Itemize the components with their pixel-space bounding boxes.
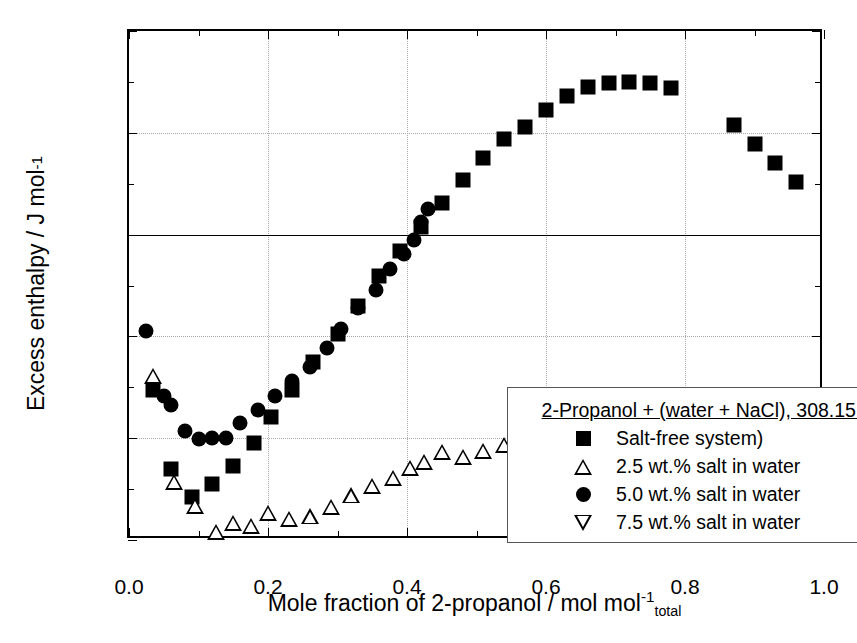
legend-title: 2-Propanol + (water + NaCl), 308.15 K	[508, 399, 857, 422]
chart-figure: Excess enthalpy / J mol-1 Mole fraction …	[0, 0, 857, 643]
data-point-filled-circle	[382, 262, 397, 277]
legend-label: 5.0 wt.% salt in water	[616, 483, 800, 506]
x-axis-minor-tick-top	[755, 30, 756, 36]
y-axis-minor-tick	[128, 82, 134, 83]
data-point-filled-square	[747, 136, 762, 151]
data-point-filled-square	[789, 175, 804, 190]
x-axis-tick	[268, 528, 269, 537]
data-point-open-triangle-up	[165, 474, 183, 490]
data-point-open-triangle-up	[224, 515, 242, 531]
y-axis-tick	[128, 438, 137, 439]
legend-entries: Salt-free system)2.5 wt.% salt in water5…	[508, 427, 857, 534]
data-point-filled-square	[601, 75, 616, 90]
x-axis-minor-tick	[477, 531, 478, 537]
legend-entry: 7.5 wt.% salt in water	[508, 511, 857, 534]
legend-marker-filled-circle	[566, 487, 600, 502]
gridline-horizontal	[129, 133, 820, 134]
data-point-filled-square	[664, 81, 679, 96]
data-point-open-triangle-up	[342, 487, 360, 503]
data-point-filled-circle	[205, 431, 220, 446]
gridline-horizontal	[129, 336, 820, 337]
legend-marker-filled-square	[566, 431, 600, 446]
data-point-filled-circle	[333, 321, 348, 336]
data-point-filled-square	[205, 477, 220, 492]
data-point-open-triangle-up	[415, 454, 433, 470]
x-axis-tick-top	[407, 30, 408, 39]
legend-label: Salt-free system)	[616, 427, 763, 450]
x-axis-tick	[129, 528, 130, 537]
y-axis-minor-tick	[128, 387, 134, 388]
gridline-vertical	[268, 31, 269, 536]
data-point-filled-square	[622, 75, 637, 90]
data-point-filled-circle	[267, 389, 282, 404]
data-point-open-triangle-up	[144, 368, 162, 384]
data-point-filled-square	[476, 151, 491, 166]
y-axis-tick-right	[812, 31, 821, 32]
y-axis-title-text: Excess enthalpy / J mol	[23, 169, 50, 411]
legend-entry: 2.5 wt.% salt in water	[508, 455, 857, 478]
legend-label: 2.5 wt.% salt in water	[616, 455, 800, 478]
data-point-filled-square	[264, 409, 279, 424]
x-axis-tick-label: 0.4	[392, 576, 421, 597]
data-point-open-triangle-up	[322, 499, 340, 515]
data-point-filled-circle	[285, 374, 300, 389]
y-axis-tick	[128, 336, 137, 337]
y-axis-tick-right	[812, 235, 821, 236]
data-point-open-triangle-up	[384, 470, 402, 486]
data-point-filled-square	[539, 102, 554, 117]
y-axis-minor-tick-right	[815, 286, 821, 287]
data-point-filled-square	[455, 173, 470, 188]
data-point-filled-square	[434, 196, 449, 211]
x-axis-tick-top	[268, 30, 269, 39]
data-point-filled-circle	[320, 340, 335, 355]
x-axis-minor-tick-top	[616, 30, 617, 36]
data-point-filled-circle	[233, 415, 248, 430]
data-point-open-triangle-up	[280, 511, 298, 527]
y-axis-tick	[128, 133, 137, 134]
x-axis-minor-tick-top	[199, 30, 200, 36]
x-axis-tick-top	[824, 30, 825, 39]
data-point-filled-square	[518, 119, 533, 134]
data-point-filled-square	[768, 156, 783, 171]
data-point-filled-circle	[139, 324, 154, 339]
data-point-open-triangle-up	[474, 443, 492, 459]
x-axis-minor-tick	[338, 531, 339, 537]
x-axis-tick-top	[129, 30, 130, 39]
data-point-filled-circle	[420, 202, 435, 217]
data-point-filled-circle	[351, 301, 366, 316]
y-axis-tick	[128, 235, 137, 236]
y-axis-tick	[128, 540, 137, 541]
data-point-filled-circle	[368, 282, 383, 297]
zero-reference-line	[129, 235, 820, 236]
legend-label: 7.5 wt.% salt in water	[616, 511, 800, 534]
data-point-filled-square	[247, 436, 262, 451]
data-point-filled-square	[643, 76, 658, 91]
data-point-open-triangle-up	[363, 478, 381, 494]
y-axis-minor-tick	[128, 184, 134, 185]
y-axis-tick-right	[812, 133, 821, 134]
data-point-open-triangle-up	[207, 524, 225, 540]
data-point-filled-circle	[406, 232, 421, 247]
data-point-filled-circle	[163, 398, 178, 413]
y-axis-minor-tick-right	[815, 184, 821, 185]
y-axis-minor-tick	[128, 489, 134, 490]
legend-entry: Salt-free system)	[508, 427, 857, 450]
x-axis-tick-label: 0.6	[531, 576, 560, 597]
y-axis-title-superscript: -1	[28, 156, 45, 170]
legend-box: 2-Propanol + (water + NaCl), 308.15 K Sa…	[507, 387, 857, 543]
x-axis-tick-top	[546, 30, 547, 39]
data-point-open-triangle-up	[433, 444, 451, 460]
x-axis-tick-label: 0.2	[253, 576, 282, 597]
data-point-filled-circle	[191, 432, 206, 447]
data-point-filled-circle	[250, 403, 265, 418]
data-point-filled-square	[580, 79, 595, 94]
plot-area: 4002000-200-400-6000.00.20.40.60.81.0 2-…	[127, 29, 822, 538]
data-point-open-triangle-up	[242, 518, 260, 534]
data-point-filled-circle	[396, 246, 411, 261]
data-point-open-triangle-up	[259, 505, 277, 521]
x-axis-minor-tick-top	[477, 30, 478, 36]
legend-marker-open-triangle-up	[566, 459, 600, 475]
x-axis-tick-label: 0.0	[114, 576, 143, 597]
data-point-filled-square	[726, 118, 741, 133]
legend-marker-open-triangle-down	[566, 515, 600, 531]
